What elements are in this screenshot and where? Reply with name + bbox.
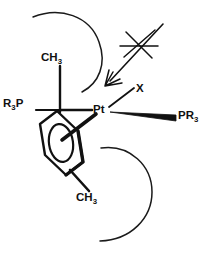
steric-shield-arc-bottom: [100, 148, 152, 241]
label-phosphine-left-sub: 3: [11, 103, 15, 112]
aromatic-circle: [46, 123, 75, 164]
chemical-structure-diagram: R3P Pt X PR3 CH3 CH3: [0, 0, 209, 253]
label-phosphine-left: R3P: [3, 98, 23, 110]
label-methyl-top: CH3: [41, 52, 62, 64]
label-methyl-bottom-base: CH: [76, 191, 93, 203]
label-phosphine-right-sub: 3: [194, 115, 198, 124]
label-phosphine-left-tail: P: [16, 97, 24, 109]
label-metal-center: Pt: [93, 104, 105, 116]
label-methyl-bottom-sub: 3: [93, 197, 97, 206]
label-methyl-bottom: CH3: [76, 192, 97, 204]
blocked-approach-arrow: [105, 24, 163, 86]
approach-arrow-shaft: [110, 24, 163, 81]
bond-pt-to-x: [109, 88, 134, 107]
label-phosphine-right-base: PR: [178, 109, 194, 121]
bond-pt-to-pr3-wedge: [110, 112, 176, 121]
aryl-ring-front-edge: [66, 131, 83, 175]
label-halide: X: [136, 83, 144, 95]
structure-canvas: [0, 0, 209, 253]
label-methyl-top-base: CH: [41, 51, 58, 63]
label-methyl-top-sub: 3: [58, 57, 62, 66]
label-phosphine-right: PR3: [178, 110, 198, 122]
bond-methyl-bottom-to-ring: [70, 170, 89, 191]
